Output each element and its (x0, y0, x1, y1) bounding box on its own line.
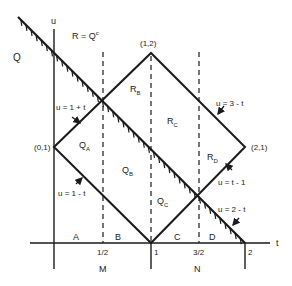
QB-main: Q (122, 165, 129, 175)
region-label-RC: RC (167, 116, 179, 128)
region-label-R: R = Qc (72, 30, 99, 41)
segment-label-B: B (115, 232, 121, 242)
tick-label-two: 2 (248, 248, 253, 257)
region-label-QC: QC (157, 196, 169, 208)
region-label-QA: QA (79, 140, 90, 152)
tick-label-half: 1/2 (97, 248, 109, 257)
t-axis-label: t (276, 238, 279, 248)
region-label-RB: RB (130, 84, 141, 96)
segment-label-C: C (174, 232, 181, 242)
arrow-u-1-minus-t (76, 178, 82, 184)
vertex-label-right: (2,1) (251, 143, 268, 152)
RB-sub: B (137, 90, 141, 96)
tick-label-one: 1 (154, 248, 159, 257)
line-label-u-t-minus-1: u = t - 1 (218, 178, 246, 187)
arrow-u-2-minus-t (233, 218, 239, 225)
QB-sub: B (129, 171, 133, 177)
dashed-lines (103, 52, 199, 243)
vertex-label-left: (0,1) (34, 143, 51, 152)
QC-sub: C (164, 202, 169, 208)
interval-label-N: N (194, 264, 201, 274)
QA-main: Q (79, 140, 86, 150)
region-label-Q: Q (13, 52, 21, 63)
u-axis-label: u (51, 16, 56, 26)
interval-label-M: M (99, 264, 107, 274)
line-label-u-1-minus-t: u = 1 - t (58, 189, 86, 198)
region-label-R-sup: c (96, 30, 99, 36)
QA-sub: A (86, 146, 90, 152)
region-label-QB: QB (122, 165, 133, 177)
arrow-u-t-minus-1 (226, 164, 232, 170)
segment-label-A: A (73, 232, 79, 242)
line-label-u-1-plus-t: u = 1 + t (56, 103, 86, 112)
segment-label-D: D (209, 232, 216, 242)
RC-sub: C (174, 122, 179, 128)
line-label-u-3-minus-t: u = 3 - t (216, 99, 244, 108)
region-label-R-text: R = Q (72, 31, 96, 41)
region-diagram: u t 1/2 1 3/2 2 M N A B C D (0,1) (1,2) … (0, 0, 292, 286)
QC-main: Q (157, 196, 164, 206)
line-label-u-2-minus-t: u = 2 - t (218, 205, 246, 214)
tick-label-three-halves: 3/2 (193, 248, 205, 257)
region-label-RD: RD (207, 152, 219, 164)
vertex-label-top: (1,2) (140, 39, 157, 48)
arrow-u-1-plus-t (72, 117, 80, 123)
RD-sub: D (214, 158, 219, 164)
arrows (72, 106, 239, 225)
hatched-boundary (18, 17, 245, 244)
